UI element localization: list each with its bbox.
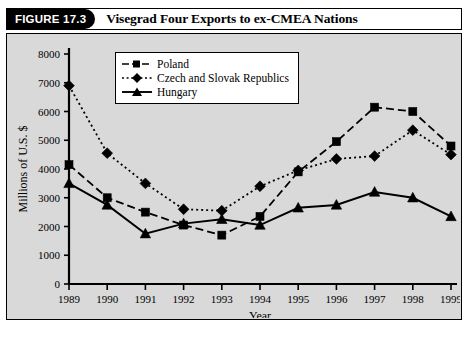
data-point-marker	[407, 125, 418, 136]
data-point-marker	[446, 211, 456, 221]
figure-title: Visegrad Four Exports to ex-CMEA Nations	[95, 9, 461, 29]
x-tick-label: 1999	[440, 293, 460, 305]
y-axis-title: Millions of U.S. $	[16, 125, 30, 212]
data-point-marker	[446, 149, 457, 160]
legend-label-poland: Poland	[157, 58, 189, 70]
figure-number-tag: FIGURE 17.3	[7, 9, 95, 29]
legend-label-czech-slovak: Czech and Slovak Republics	[157, 72, 289, 84]
x-tick-label: 1998	[402, 293, 425, 305]
y-axis-ticks: 010002000300040005000600070008000	[38, 48, 69, 290]
chart-panel: 010002000300040005000600070008000 198919…	[6, 33, 462, 320]
y-tick-label: 0	[55, 278, 61, 290]
data-series-group	[64, 80, 457, 239]
x-tick-label: 1997	[364, 293, 387, 305]
y-tick-label: 8000	[38, 48, 61, 60]
y-tick-label: 7000	[38, 77, 61, 89]
y-tick-label: 5000	[38, 134, 61, 146]
y-tick-label: 1000	[38, 249, 61, 261]
data-point-marker	[371, 103, 379, 111]
data-point-marker	[331, 154, 342, 165]
x-tick-label: 1993	[211, 293, 234, 305]
x-axis-ticks: 1989199019911992199319941995199619971998…	[58, 284, 460, 305]
legend-swatch-square-dashed	[122, 58, 152, 70]
data-point-marker	[369, 151, 380, 162]
data-point-marker	[64, 178, 74, 188]
y-tick-label: 6000	[38, 106, 61, 118]
legend-item-hungary: Hungary	[122, 85, 289, 99]
x-axis-title: Year	[249, 309, 271, 318]
data-point-marker	[332, 138, 340, 146]
x-tick-label: 1995	[287, 293, 310, 305]
y-tick-label: 4000	[38, 163, 61, 175]
data-point-marker	[447, 142, 455, 150]
figure-header: FIGURE 17.3 Visegrad Four Exports to ex-…	[6, 8, 462, 30]
x-tick-label: 1996	[325, 293, 348, 305]
legend-swatch-diamond-dotted	[122, 72, 152, 84]
data-point-marker	[178, 204, 189, 215]
data-point-marker	[217, 214, 227, 224]
series-poland	[65, 103, 455, 239]
figure-container: FIGURE 17.3 Visegrad Four Exports to ex-…	[0, 0, 472, 342]
data-point-marker	[141, 208, 149, 216]
x-tick-label: 1992	[173, 293, 195, 305]
data-point-marker	[218, 231, 226, 239]
chart-legend: Poland Czech and Slovak Republics Hungar…	[115, 52, 299, 104]
x-tick-label: 1994	[249, 293, 272, 305]
x-tick-label: 1990	[96, 293, 119, 305]
data-point-marker	[65, 161, 73, 169]
y-tick-label: 2000	[38, 221, 61, 233]
data-point-marker	[64, 80, 75, 91]
x-tick-label: 1989	[58, 293, 81, 305]
legend-item-czech-slovak: Czech and Slovak Republics	[122, 71, 289, 85]
data-point-marker	[255, 181, 266, 192]
data-point-marker	[102, 148, 113, 159]
data-point-marker	[409, 108, 417, 116]
data-point-marker	[369, 187, 379, 197]
legend-label-hungary: Hungary	[157, 86, 197, 98]
legend-item-poland: Poland	[122, 57, 289, 71]
x-tick-label: 1991	[134, 293, 156, 305]
y-tick-label: 3000	[38, 192, 61, 204]
legend-swatch-triangle-solid	[122, 86, 152, 98]
